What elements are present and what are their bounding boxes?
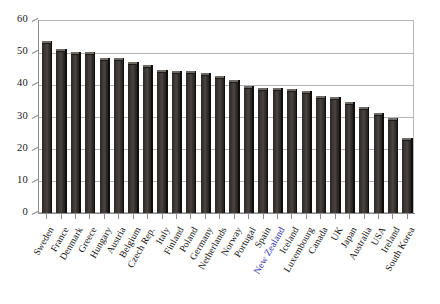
- bar: [302, 91, 311, 213]
- x-tick-label: Portugal: [188, 225, 258, 304]
- bar: [157, 70, 166, 213]
- bar-body: [201, 73, 210, 213]
- bar-side-face: [368, 107, 370, 213]
- x-tick-label: Norway: [174, 225, 244, 304]
- x-tick-mark: [89, 214, 90, 219]
- x-tick-label: Denmark: [15, 225, 85, 304]
- x-tick-label: Australia: [304, 225, 374, 304]
- bar-body: [143, 65, 152, 213]
- bar-top-face: [374, 113, 383, 116]
- bar-body: [359, 107, 368, 213]
- bar-side-face: [65, 49, 67, 213]
- y-tick-label: 30: [2, 110, 28, 121]
- bar-top-face: [244, 86, 253, 89]
- x-tick-mark: [378, 214, 379, 219]
- bar-top-face: [100, 58, 109, 61]
- x-tick-label: Iceland: [232, 225, 302, 304]
- x-tick-mark: [407, 214, 408, 219]
- bar-side-face: [94, 52, 96, 213]
- bar-body: [114, 58, 123, 213]
- bar-side-face: [79, 52, 81, 213]
- x-tick-label: Finland: [116, 225, 186, 304]
- bar: [85, 52, 94, 213]
- x-tick-mark: [118, 214, 119, 219]
- bar: [143, 65, 152, 213]
- x-axis-line: [38, 213, 415, 214]
- x-tick-label: USA: [318, 225, 388, 304]
- bar-body: [316, 96, 325, 213]
- x-tick-label: Czech Rep.: [87, 225, 157, 304]
- bar-top-face: [316, 96, 325, 99]
- y-tick-label: 50: [2, 45, 28, 56]
- x-tick-mark: [147, 214, 148, 219]
- bar-body: [56, 49, 65, 213]
- x-tick-label: Ireland: [333, 225, 403, 304]
- bar-top-face: [157, 70, 166, 73]
- x-tick-label: New Zealand: [217, 225, 287, 304]
- bar-top-face: [85, 52, 94, 55]
- bar-series: [39, 20, 414, 213]
- bar-body: [345, 102, 354, 213]
- bar-body: [273, 88, 282, 213]
- bar-body: [100, 58, 109, 213]
- bar: [258, 88, 267, 213]
- bar-top-face: [388, 118, 397, 121]
- x-tick-mark: [392, 214, 393, 219]
- bar-side-face: [51, 41, 53, 213]
- bar-top-face: [186, 71, 195, 74]
- bar-body: [244, 86, 253, 213]
- y-tick-label: 20: [2, 142, 28, 153]
- x-tick-mark: [291, 214, 292, 219]
- bar: [42, 41, 51, 213]
- x-tick-label: Spain: [203, 225, 273, 304]
- bar-body: [229, 80, 238, 213]
- bar-body: [128, 62, 137, 213]
- bar-side-face: [238, 80, 240, 213]
- bar-side-face: [325, 96, 327, 213]
- x-tick-label: Luxembourg: [246, 225, 316, 304]
- bar-top-face: [143, 65, 152, 68]
- bar-top-face: [345, 102, 354, 105]
- bar-body: [186, 71, 195, 213]
- bar: [229, 80, 238, 213]
- bar-top-face: [56, 49, 65, 52]
- bar: [374, 113, 383, 213]
- bar: [316, 96, 325, 213]
- bar: [273, 88, 282, 213]
- bar-body: [302, 91, 311, 213]
- bar-top-face: [215, 76, 224, 79]
- bar: [100, 58, 109, 213]
- bar-top-face: [258, 88, 267, 91]
- bar-top-face: [172, 71, 181, 74]
- y-tick-label: 60: [2, 13, 28, 24]
- bar-side-face: [382, 113, 384, 213]
- bar-side-face: [108, 58, 110, 213]
- bar-body: [71, 52, 80, 213]
- x-tick-label: France: [1, 225, 71, 304]
- x-tick-mark: [277, 214, 278, 219]
- bar-top-face: [71, 52, 80, 55]
- x-tick-label: Greece: [30, 225, 100, 304]
- x-tick-label: Japan: [289, 225, 359, 304]
- x-tick-label: UK: [275, 225, 345, 304]
- bar-body: [374, 113, 383, 213]
- bar-side-face: [267, 88, 269, 213]
- bar-body: [330, 97, 339, 213]
- bar-side-face: [339, 97, 341, 213]
- bar: [128, 62, 137, 213]
- bar-side-face: [209, 73, 211, 213]
- x-tick-mark: [162, 214, 163, 219]
- bar: [56, 49, 65, 213]
- x-tick-label: Sweden: [0, 225, 56, 304]
- bar-side-face: [224, 76, 226, 213]
- bar-side-face: [180, 71, 182, 213]
- bar-body: [287, 89, 296, 213]
- bar-top-face: [42, 41, 51, 44]
- y-tick-label: 0: [2, 206, 28, 217]
- bar-body: [258, 88, 267, 213]
- x-tick-mark: [219, 214, 220, 219]
- x-tick-mark: [176, 214, 177, 219]
- bar-top-face: [128, 62, 137, 65]
- x-tick-label: Belgium: [73, 225, 143, 304]
- bar-body: [172, 71, 181, 213]
